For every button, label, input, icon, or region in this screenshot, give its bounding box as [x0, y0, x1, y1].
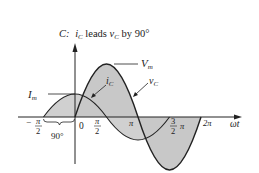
svg-text:vC: vC [149, 75, 158, 88]
title-i-sub: C [78, 33, 83, 41]
vc-sub: C [153, 80, 158, 88]
title-by: by 90° [122, 28, 150, 39]
svg-text:Im: Im [27, 88, 37, 102]
ic-sub: C [109, 80, 114, 88]
svg-text:Vm: Vm [141, 57, 153, 71]
y-axis-arrow-icon [73, 43, 78, 52]
phase-diagram: C: iC leads vC by 90° Vm Im iC vC − π 2 … [0, 0, 259, 173]
tick-half-pi-num: π [95, 116, 100, 126]
tick-zero: 0 [79, 121, 84, 131]
tick-3half-num: 3 [171, 116, 175, 126]
phase-label: 90° [51, 131, 64, 141]
tick-pi: π [129, 118, 134, 128]
vm-sub: m [148, 63, 153, 71]
im-sub: m [32, 94, 37, 102]
x-axis-label: ωt [230, 119, 240, 129]
tick-3half-den: 2 [171, 126, 175, 136]
tick-neg-sign: − [26, 117, 31, 127]
svg-text:C: iC leads vC: C: iC leads vC by 90° [59, 28, 149, 41]
tick-two-pi: 2π [203, 118, 212, 128]
title-v-sub: C [114, 33, 119, 41]
vc-leader [136, 83, 148, 94]
title-prefix: C: [59, 28, 70, 39]
tick-neg-den: 2 [36, 126, 40, 136]
tick-half-pi-den: 2 [95, 126, 99, 136]
tick-neg-num: π [36, 116, 41, 126]
phase-brace [44, 119, 75, 125]
title-leads: leads [85, 28, 107, 39]
tick-3half-pi: π [180, 121, 185, 131]
